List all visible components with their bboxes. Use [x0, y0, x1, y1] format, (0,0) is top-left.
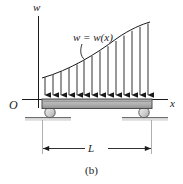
span-length-label: L [88, 143, 94, 154]
load-function-leader-line [81, 44, 85, 60]
figure-caption: (b) [0, 165, 183, 176]
span-dimension [43, 120, 152, 154]
beam-load-diagram: w x O w = w(x) L (b) [0, 0, 183, 184]
w-axis-label: w [33, 2, 40, 13]
diagram-canvas [0, 0, 183, 184]
load-function-label: w = w(x) [73, 32, 113, 43]
origin-label: O [9, 99, 18, 111]
x-axis-label: x [170, 98, 175, 109]
ground-surfaces [25, 117, 168, 121]
beam [42, 99, 152, 109]
